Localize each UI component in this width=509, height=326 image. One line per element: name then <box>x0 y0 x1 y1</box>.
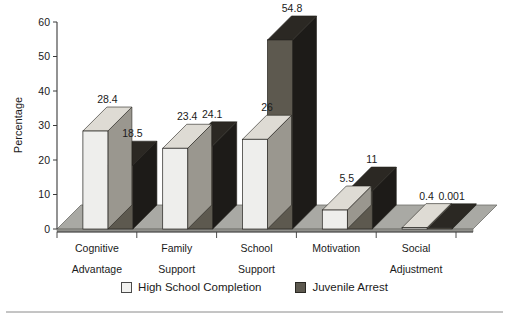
category-label: Support <box>238 263 275 275</box>
y-tick-label: 30 <box>38 119 50 131</box>
bar-value-label: 26 <box>261 101 273 113</box>
y-tick-label: 0 <box>44 223 50 235</box>
y-tick-label: 50 <box>38 50 50 62</box>
legend-swatch-juvenile-arrest <box>295 282 306 293</box>
category-label: Motivation <box>312 242 360 254</box>
x-axis <box>57 232 473 238</box>
bar-value-label: 18.5 <box>122 127 143 139</box>
category-label: Cognitive <box>75 242 119 254</box>
legend-label-high-school-completion: High School Completion <box>138 281 261 293</box>
bar-value-label: 0.001 <box>438 190 464 202</box>
category-label: School <box>240 242 272 254</box>
y-tick-label: 10 <box>38 188 50 200</box>
legend-label-juvenile-arrest: Juvenile Arrest <box>312 281 387 293</box>
y-axis: 6050403020100 <box>38 16 57 235</box>
chart-legend: High School Completion Juvenile Arrest <box>0 281 509 293</box>
category-label: Support <box>158 263 195 275</box>
bar-high-school-completion <box>243 115 292 229</box>
legend-item-juvenile-arrest: Juvenile Arrest <box>295 281 387 293</box>
category-label: Social <box>402 242 431 254</box>
x-axis-ticks <box>57 232 456 238</box>
category-label: Adjustment <box>390 263 443 275</box>
chart-figure: 6050403020100 0.0010.4115.554.82624.123.… <box>0 0 509 326</box>
bar-value-label: 5.5 <box>339 172 354 184</box>
bar-value-label: 11 <box>366 153 377 165</box>
bars-layer <box>83 16 476 229</box>
category-labels: CognitiveAdvantageFamilySupportSchoolSup… <box>72 242 443 275</box>
y-tick-label: 60 <box>38 16 50 28</box>
bar-value-label: 28.4 <box>97 93 118 105</box>
legend-swatch-high-school-completion <box>121 282 132 293</box>
bar-value-label: 54.8 <box>282 2 303 14</box>
category-label: Family <box>161 242 193 254</box>
legend-item-high-school-completion: High School Completion <box>121 281 261 293</box>
bar-value-label: 24.1 <box>202 108 223 120</box>
bar-value-label: 0.4 <box>419 190 434 202</box>
y-axis-title: Percentage <box>12 97 24 153</box>
y-tick-label: 40 <box>38 85 50 97</box>
category-label: Advantage <box>72 263 122 275</box>
y-axis-ticks: 6050403020100 <box>38 16 57 235</box>
bar-value-label: 23.4 <box>177 110 198 122</box>
bar-high-school-completion <box>83 107 132 229</box>
y-tick-label: 20 <box>38 154 50 166</box>
bar-chart-canvas: 6050403020100 0.0010.4115.554.82624.123.… <box>0 0 509 326</box>
